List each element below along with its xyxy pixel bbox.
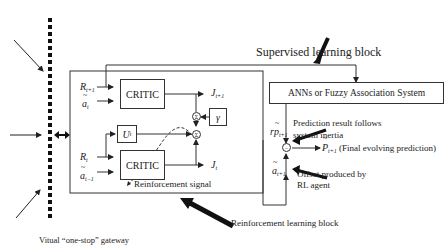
critic-box-bottom: CRITIC <box>120 150 165 180</box>
label-J-t1: Jt+1 <box>211 88 224 99</box>
critic-top-label: CRITIC <box>126 89 159 100</box>
output-label: ~Pt+1 (Final evolving prediction) <box>322 143 436 154</box>
supervised-learning-label: Supervised learning block <box>256 46 381 58</box>
minus-node: − <box>282 143 291 152</box>
minus-symbol: − <box>285 145 288 151</box>
gamma-box: γ <box>209 108 227 126</box>
critic-bottom-label: CRITIC <box>126 160 159 171</box>
sum-1-symbol: Σ <box>195 114 199 120</box>
label-a-t1: ~at+1 <box>272 166 286 177</box>
sum-node-2: Σ <box>192 130 201 139</box>
label-J-t: Jt <box>211 160 217 171</box>
sum-node-1: Σ <box>192 112 201 121</box>
anns-fuzzy-box: ANNs or Fuzzy Association System <box>269 82 444 104</box>
utility-symbol: U <box>123 129 130 140</box>
gateway-label: Vitual “one-stop” gateway <box>39 236 129 245</box>
utility-sub: t <box>130 131 132 137</box>
rl-block-border <box>70 71 263 193</box>
gamma-symbol: γ <box>216 112 220 123</box>
utility-box: Ut <box>117 125 137 143</box>
anns-fuzzy-label: ANNs or Fuzzy Association System <box>288 88 425 98</box>
reinforcement-signal-label: Reinforcement signal <box>134 180 211 189</box>
note-prediction-1: Prediction result follows <box>293 119 382 128</box>
label-a-t: ~at <box>82 99 89 110</box>
critic-box-top: CRITIC <box>120 79 165 109</box>
label-a-t-1: ~at−1 <box>80 171 94 182</box>
note-prediction-2: system inertia <box>293 131 343 140</box>
incoming-arrow-bottom <box>16 190 40 218</box>
sum-2-symbol: Σ <box>195 132 199 138</box>
note-offset-1: Offset produced by <box>297 170 366 179</box>
rl-block-label: Reinforcement learning block <box>231 219 338 228</box>
incoming-arrow-top <box>14 40 43 71</box>
label-R-t: Rt <box>80 152 88 163</box>
label-rp-t1: ~rpt+1 <box>270 127 288 138</box>
note-offset-2: RL agent <box>297 181 330 190</box>
